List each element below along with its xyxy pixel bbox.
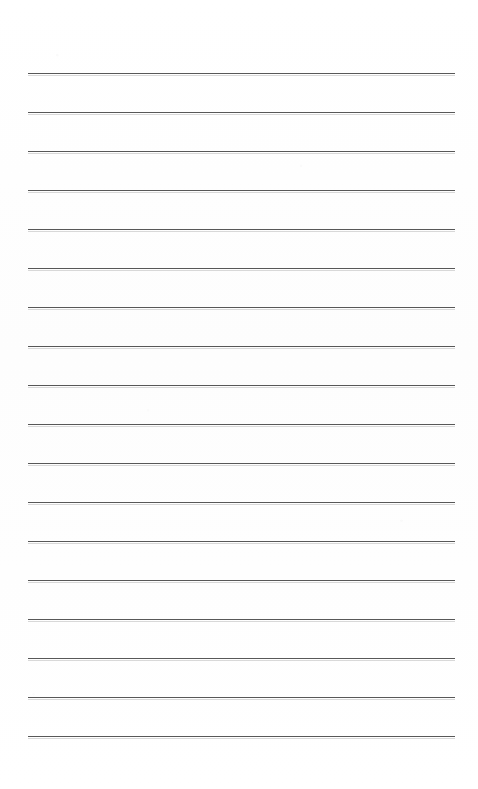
rule-line — [28, 541, 455, 542]
rule-line — [28, 424, 455, 425]
rule-line — [28, 580, 455, 581]
rule-line — [28, 619, 455, 620]
rule-line — [28, 502, 455, 503]
rule-line — [28, 190, 455, 191]
rule-line — [28, 268, 455, 269]
rule-line — [28, 346, 455, 347]
rule-line — [28, 385, 455, 386]
rule-line — [28, 307, 455, 308]
rule-line — [28, 736, 455, 737]
rule-line — [28, 229, 455, 230]
lined-paper-page: Lined Paper Sheet — [0, 0, 478, 789]
rule-line — [28, 463, 455, 464]
rule-line — [28, 151, 455, 152]
rule-line — [28, 697, 455, 698]
rule-line — [28, 73, 455, 74]
rule-line — [28, 658, 455, 659]
rule-line — [28, 112, 455, 113]
ruled-lines-area — [0, 0, 478, 789]
